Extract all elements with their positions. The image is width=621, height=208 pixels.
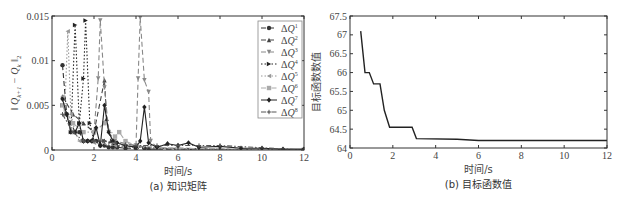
x-tick-label: 4: [134, 152, 139, 163]
x-tick-label: 0: [50, 152, 55, 163]
plot-area: [361, 31, 607, 140]
x-tick-label: 0: [348, 150, 353, 161]
legend: ΔQ1ΔQ2ΔQ3ΔQ4ΔQ5ΔQ6ΔQ7ΔQ8: [258, 21, 302, 118]
x-tick-label: 12: [299, 152, 309, 163]
y-tick-label: 65: [337, 105, 347, 116]
y-tick-label: 67: [337, 29, 347, 40]
x-axis-label: 时间/s: [464, 163, 493, 175]
x-tick-label: 10: [257, 152, 267, 163]
y-tick-label: 0.005: [27, 100, 50, 111]
x-tick-label: 6: [176, 152, 181, 163]
chart-b: 0246810126464.56565.56666.56767.5时间/s(b)…: [330, 11, 613, 191]
axes-box: [350, 16, 607, 148]
y-axis-label: ‖ Qk+1 − Qk ‖2: [9, 55, 23, 110]
x-tick-label: 2: [390, 150, 395, 161]
x-tick-label: 8: [519, 150, 524, 161]
figure-caption: (a) 知识矩阵: [149, 180, 206, 192]
y-tick-label: 64.5: [330, 124, 348, 135]
x-tick-label: 10: [559, 150, 569, 161]
series-line: [361, 31, 607, 140]
y-tick-label: 67.5: [330, 11, 348, 22]
x-tick-label: 4: [433, 150, 438, 161]
y-tick-label: 0: [44, 145, 49, 156]
y-tick-label: 64: [337, 143, 347, 154]
x-tick-label: 12: [602, 150, 612, 161]
y-tick-label: 66: [337, 67, 347, 78]
y-tick-label: 66.5: [330, 48, 348, 59]
y-tick-label: 0.015: [27, 11, 50, 22]
figure: 02468101200.0050.010.015时间/s(a) 知识矩阵0246…: [0, 0, 621, 208]
x-tick-label: 2: [92, 152, 97, 163]
x-tick-label: 6: [476, 150, 481, 161]
y-axis-label: 目标函数数值: [310, 52, 322, 112]
y-tick-label: 0.01: [32, 55, 50, 66]
x-axis-label: 时间/s: [164, 165, 193, 177]
y-tick-label: 65.5: [330, 86, 348, 97]
figure-caption: (b) 目标函数值: [445, 178, 512, 190]
x-tick-label: 8: [218, 152, 223, 163]
